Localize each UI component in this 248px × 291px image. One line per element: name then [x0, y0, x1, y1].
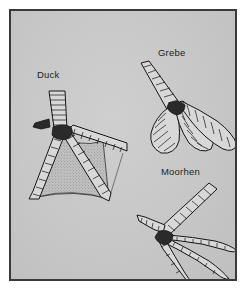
moorhen-foot-illustration [131, 181, 237, 281]
figure-frame: Duck Grebe Moorhen [9, 9, 237, 281]
duck-toe-joint [52, 125, 72, 140]
label-moorhen: Moorhen [161, 166, 200, 177]
label-grebe: Grebe [158, 47, 185, 58]
moorhen-tarsus [159, 183, 217, 237]
label-duck: Duck [37, 69, 59, 80]
duck-hallux [33, 119, 50, 129]
figure-root: Duck Grebe Moorhen [0, 0, 248, 291]
duck-foot-illustration [19, 89, 139, 214]
moorhen-toe-joint [155, 231, 173, 246]
grebe-foot-illustration [135, 59, 237, 159]
